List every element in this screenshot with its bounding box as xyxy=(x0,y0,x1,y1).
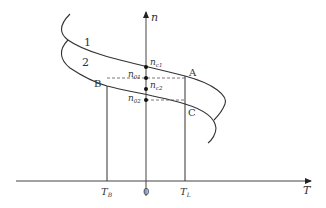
label-nc1: nc1 xyxy=(150,57,162,68)
dot-nc2 xyxy=(144,87,148,91)
curve-2-label: 2 xyxy=(82,56,89,69)
t-axis-label: T xyxy=(303,184,312,197)
point-c-label: C xyxy=(188,107,196,118)
dot-n02 xyxy=(144,98,148,102)
dot-n01 xyxy=(144,76,148,80)
n-axis-label: n xyxy=(151,11,158,24)
label-n01: n01 xyxy=(128,69,141,80)
tick-zero: 0 xyxy=(143,186,149,197)
diagram-canvas: n T TB 0 TL 1 2 A B C nc1 n01 nc2 n02 xyxy=(0,0,326,208)
point-b-label: B xyxy=(94,78,101,89)
curve-1-label: 1 xyxy=(84,36,91,49)
point-a-label: A xyxy=(188,67,197,78)
label-nc2: nc2 xyxy=(150,80,163,91)
tick-tl: TL xyxy=(180,186,191,198)
dot-nc1 xyxy=(144,65,148,69)
tick-tb: TB xyxy=(101,186,113,198)
label-n02: n02 xyxy=(128,93,141,104)
